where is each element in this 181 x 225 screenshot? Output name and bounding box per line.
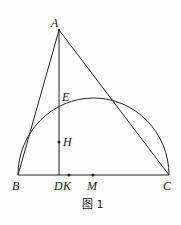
- segment-ab: [18, 30, 59, 175]
- diagram-canvas: A E H B D K M C 图 1: [0, 0, 181, 225]
- point-m: [92, 174, 95, 177]
- label-m: M: [86, 179, 98, 193]
- label-b: B: [12, 179, 20, 193]
- label-a: A: [50, 16, 59, 30]
- label-e: E: [61, 90, 70, 104]
- segment-ac: [59, 30, 169, 175]
- semicircle-arc: [18, 98, 169, 175]
- label-h: H: [62, 135, 73, 149]
- label-k: K: [62, 179, 72, 193]
- label-d: D: [53, 179, 63, 193]
- geometry-figure: A E H B D K M C 图 1: [0, 0, 181, 225]
- label-c: C: [163, 179, 172, 193]
- figure-caption: 图 1: [82, 198, 104, 211]
- point-k: [68, 174, 71, 177]
- point-h: [58, 141, 61, 144]
